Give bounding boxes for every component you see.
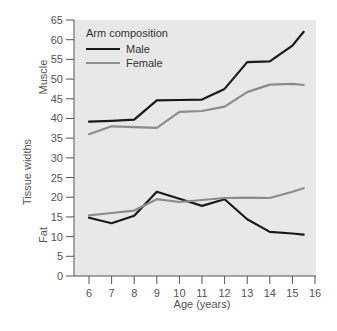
y-axis: 05101520253035404550556065 xyxy=(51,14,74,282)
x-tick-label: 6 xyxy=(86,287,92,299)
arm-composition-chart: 05101520253035404550556065 6789101112131… xyxy=(0,0,337,331)
legend-title: Arm composition xyxy=(86,27,168,39)
y-tick-label: 30 xyxy=(51,152,63,164)
x-tick-label: 15 xyxy=(286,287,298,299)
legend-label-female: Female xyxy=(126,57,163,69)
y-tick-label: 40 xyxy=(51,112,63,124)
y-tick-label: 0 xyxy=(57,270,63,282)
x-tick-label: 8 xyxy=(131,287,137,299)
y-axis-label-fat: Fat xyxy=(37,227,49,243)
y-tick-label: 15 xyxy=(51,211,63,223)
y-tick-label: 5 xyxy=(57,250,63,262)
x-tick-label: 16 xyxy=(309,287,321,299)
x-tick-label: 9 xyxy=(154,287,160,299)
y-tick-label: 10 xyxy=(51,231,63,243)
plot-area xyxy=(74,20,316,276)
x-tick-label: 14 xyxy=(264,287,276,299)
y-tick-label: 60 xyxy=(51,34,63,46)
y-tick-label: 25 xyxy=(51,172,63,184)
legend-label-male: Male xyxy=(126,43,150,55)
y-tick-label: 45 xyxy=(51,93,63,105)
y-axis-title: Tissue widths xyxy=(21,138,33,205)
y-tick-label: 35 xyxy=(51,132,63,144)
x-tick-label: 7 xyxy=(109,287,115,299)
x-axis-title: Age (years) xyxy=(174,298,231,310)
y-tick-label: 50 xyxy=(51,73,63,85)
y-axis-label-muscle: Muscle xyxy=(37,60,49,95)
x-axis: 678910111213141516 xyxy=(74,276,321,299)
x-tick-label: 13 xyxy=(241,287,253,299)
y-tick-label: 55 xyxy=(51,53,63,65)
y-tick-label: 65 xyxy=(51,14,63,26)
y-tick-label: 20 xyxy=(51,191,63,203)
